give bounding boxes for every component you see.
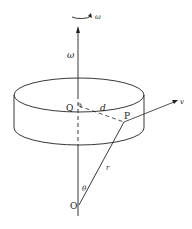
rotation-arrow-icon [72,16,91,19]
velocity-v-label: v [180,98,184,106]
disc-bottom-arc [14,128,144,145]
axis-omega-label: ω [67,50,75,60]
origin-o-label: O [70,201,77,211]
distance-d-label: d [100,103,106,113]
radius-r-label: r [106,164,110,172]
point-q-label: Q [66,103,73,113]
disc-top-ellipse [14,78,144,112]
point-p-label: P [124,111,130,121]
disc-rotation-diagram: ω ω Q d P v r θ O [0,0,192,229]
rotation-omega-label: ω [95,13,101,21]
axis-arrowhead-icon [76,26,80,33]
velocity-arrowhead-icon [172,100,178,104]
